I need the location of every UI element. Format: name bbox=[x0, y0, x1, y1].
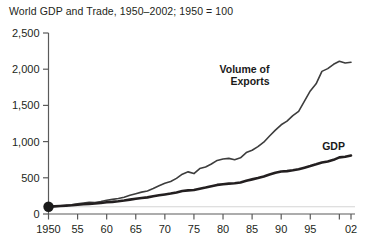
y-tick-label: 0 bbox=[33, 208, 39, 220]
baseline-marker-dot bbox=[43, 202, 53, 212]
x-tick-label: 95 bbox=[304, 223, 316, 235]
series-line-volume-of-exports bbox=[49, 61, 352, 207]
series-annotation: Volume ofExports bbox=[220, 63, 270, 87]
x-tick-label: 02 bbox=[345, 223, 357, 235]
marker-group bbox=[43, 202, 53, 212]
y-tick-label: 1,000 bbox=[12, 136, 40, 148]
series-annotation: GDP bbox=[322, 140, 345, 152]
y-tick-label: 1,500 bbox=[12, 99, 40, 111]
series-line-gdp bbox=[49, 156, 352, 207]
x-tick-label: 1950 bbox=[36, 223, 60, 235]
y-tick-label: 2,500 bbox=[12, 27, 40, 39]
series-annotation-line: Volume of bbox=[220, 63, 270, 75]
x-tick-label: 55 bbox=[71, 223, 83, 235]
series-annotation-line: Exports bbox=[230, 75, 269, 87]
series-annotation-line: GDP bbox=[322, 140, 345, 152]
y-tick-label: 500 bbox=[21, 172, 39, 184]
y-tick-label: 2,000 bbox=[12, 63, 40, 75]
series-annotation-group: Volume ofExportsGDP bbox=[220, 63, 345, 152]
x-tick-label: 80 bbox=[217, 223, 229, 235]
chart-container: World GDP and Trade, 1950–2002; 1950 = 1… bbox=[0, 0, 366, 246]
y-axis: 05001,0001,5002,0002,500 bbox=[12, 27, 49, 220]
x-tick-label: 75 bbox=[188, 223, 200, 235]
x-tick-label: 85 bbox=[246, 223, 258, 235]
x-axis: 195055606570758085909502 bbox=[36, 214, 357, 235]
x-tick-label: 70 bbox=[159, 223, 171, 235]
x-tick-label: 90 bbox=[275, 223, 287, 235]
data-series-group bbox=[49, 61, 352, 207]
x-tick-label: 60 bbox=[101, 223, 113, 235]
chart-plot-area: 05001,0001,5002,0002,500 195055606570758… bbox=[0, 0, 366, 246]
x-tick-label: 65 bbox=[130, 223, 142, 235]
